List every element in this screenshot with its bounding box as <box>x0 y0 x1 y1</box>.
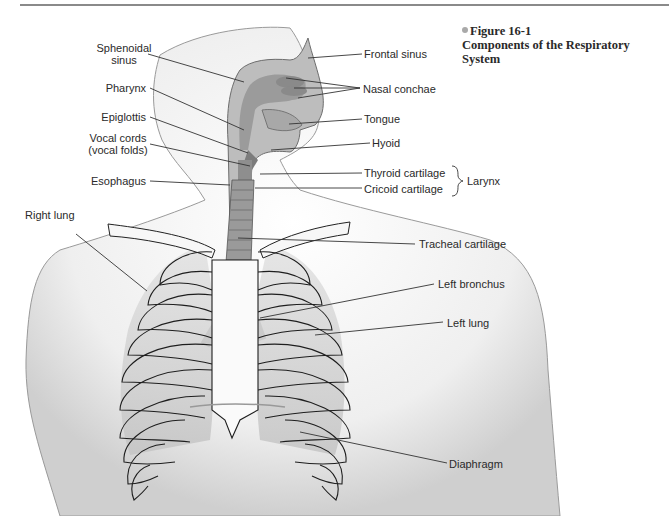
label-sphenoidal-sinus: Sphenoidal sinus <box>96 42 152 66</box>
label-hyoid: Hyoid <box>372 137 400 149</box>
label-left-lung: Left lung <box>447 317 489 329</box>
label-left-bronchus: Left bronchus <box>438 278 505 290</box>
larynx-brace <box>452 166 463 196</box>
label-tracheal-cartilage: Tracheal cartilage <box>419 238 506 250</box>
label-cricoid-cartilage: Cricoid cartilage <box>364 183 443 195</box>
label-line: Sphenoidal <box>96 42 152 54</box>
label-tongue: Tongue <box>364 113 400 125</box>
label-right-lung: Right lung <box>25 209 75 221</box>
respiratory-system-illustration <box>0 0 669 516</box>
label-esophagus: Esophagus <box>80 175 146 187</box>
label-line: sinus <box>96 54 152 66</box>
label-epiglottis: Epiglottis <box>90 111 146 123</box>
label-line: Vocal cords <box>86 132 150 144</box>
label-larynx: Larynx <box>467 175 500 187</box>
label-pharynx: Pharynx <box>90 82 146 94</box>
label-nasal-conchae: Nasal conchae <box>363 83 436 95</box>
label-line: (vocal folds) <box>86 144 150 156</box>
label-frontal-sinus: Frontal sinus <box>364 48 427 60</box>
label-vocal-cords: Vocal cords (vocal folds) <box>86 132 150 156</box>
label-thyroid-cartilage: Thyroid cartilage <box>364 167 445 179</box>
label-diaphragm: Diaphragm <box>449 458 503 470</box>
